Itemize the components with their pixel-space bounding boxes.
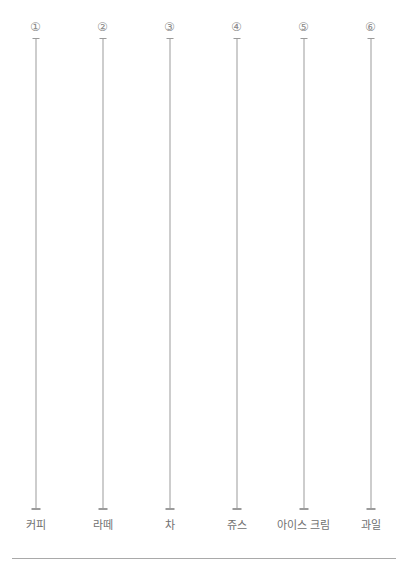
column-category-label: 과일 <box>339 518 403 534</box>
column-category-label: 커피 <box>4 518 68 534</box>
axis-column[interactable]: ③ 차 <box>136 0 203 560</box>
vertical-axis[interactable] <box>298 38 310 510</box>
axis-line <box>169 38 170 510</box>
axis-bottom-cap-icon <box>31 508 40 510</box>
axis-column-group: ① 커피 ② 라떼 ③ 차 <box>0 0 406 560</box>
axis-line <box>303 38 304 510</box>
baseline-rule <box>12 558 396 559</box>
axis-column[interactable]: ② 라떼 <box>69 0 136 560</box>
axis-column[interactable]: ① 커피 <box>2 0 69 560</box>
axis-column[interactable]: ⑥ 과일 <box>337 0 404 560</box>
axis-line <box>35 38 36 510</box>
vertical-axis[interactable] <box>97 38 109 510</box>
column-category-label: 쥬스 <box>205 518 269 534</box>
axis-line <box>102 38 103 510</box>
column-category-label: 라떼 <box>71 518 135 534</box>
column-index-label: ④ <box>231 20 242 34</box>
column-category-label: 아이스 크림 <box>272 518 336 534</box>
axis-line <box>236 38 237 510</box>
axis-bottom-cap-icon <box>299 508 308 510</box>
column-index-label: ① <box>30 20 41 34</box>
axis-line <box>370 38 371 510</box>
axis-column[interactable]: ⑤ 아이스 크림 <box>270 0 337 560</box>
column-index-label: ② <box>97 20 108 34</box>
column-index-label: ⑥ <box>365 20 376 34</box>
column-index-label: ⑤ <box>298 20 309 34</box>
vertical-axis[interactable] <box>30 38 42 510</box>
axis-bottom-cap-icon <box>165 508 174 510</box>
axis-bottom-cap-icon <box>232 508 241 510</box>
vertical-axis[interactable] <box>164 38 176 510</box>
column-index-label: ③ <box>164 20 175 34</box>
axis-column[interactable]: ④ 쥬스 <box>203 0 270 560</box>
vertical-axis[interactable] <box>231 38 243 510</box>
column-category-label: 차 <box>138 518 202 534</box>
axis-bottom-cap-icon <box>366 508 375 510</box>
vertical-axis[interactable] <box>365 38 377 510</box>
chart-canvas: ① 커피 ② 라떼 ③ 차 <box>0 0 406 575</box>
axis-bottom-cap-icon <box>98 508 107 510</box>
